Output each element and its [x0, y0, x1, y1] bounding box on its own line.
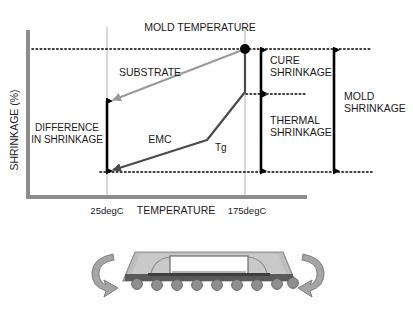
thermal-shrinkage-label: THERMAL SHRINKAGE	[270, 114, 332, 138]
gridlines	[107, 27, 245, 199]
substrate-label: SUBSTRATE	[119, 66, 181, 78]
package-solder-balls	[132, 278, 299, 291]
figure-root: SHRINKAGE (%) MOLD TEMPERATURE SUBSTRATE…	[0, 0, 413, 311]
warpage-arrow-left	[92, 254, 118, 297]
svg-text:IN SHRINKAGE: IN SHRINKAGE	[31, 134, 103, 145]
tg-label: Tg	[215, 142, 227, 153]
x-tick-175degC: 175degC	[228, 205, 267, 216]
svg-text:MOLD: MOLD	[344, 90, 375, 102]
package-cross-section	[92, 252, 324, 297]
package-substrate-trace	[148, 273, 270, 276]
shrinkage-diagram: SHRINKAGE (%) MOLD TEMPERATURE SUBSTRATE…	[0, 0, 413, 311]
x-axis-label: TEMPERATURE	[137, 204, 216, 216]
svg-text:SHRINKAGE: SHRINKAGE	[270, 66, 332, 78]
svg-text:CURE: CURE	[270, 54, 300, 66]
y-axis-label: SHRINKAGE (%)	[8, 89, 20, 170]
mold-shrinkage-label: MOLD SHRINKAGE	[344, 90, 406, 114]
cure-shrinkage-label: CURE SHRINKAGE	[270, 54, 332, 78]
warpage-arrow-right	[298, 254, 324, 297]
mold-temperature-label: MOLD TEMPERATURE	[144, 21, 256, 33]
svg-text:THERMAL: THERMAL	[270, 114, 320, 126]
svg-text:SHRINKAGE: SHRINKAGE	[344, 102, 406, 114]
svg-text:SHRINKAGE: SHRINKAGE	[270, 126, 332, 138]
svg-text:DIFFERENCE: DIFFERENCE	[35, 122, 99, 133]
emc-label: EMC	[148, 133, 172, 145]
mold-temperature-point	[240, 44, 250, 54]
x-tick-25degC: 25degC	[90, 205, 123, 216]
package-die	[170, 256, 248, 274]
difference-in-shrinkage-label: DIFFERENCE IN SHRINKAGE	[31, 122, 103, 145]
